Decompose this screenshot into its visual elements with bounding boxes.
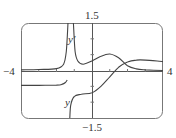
- derivative-curve-left: [21, 23, 68, 70]
- derivative-curve-right: [73, 23, 163, 71]
- function-curve-right: [70, 60, 163, 118]
- curve-label-yprime: y′: [68, 34, 75, 45]
- function-curve-left: [21, 80, 67, 85]
- curve-label-y: y: [65, 97, 70, 108]
- y-max-tick-label: 1.5: [85, 10, 99, 21]
- x-max-tick-label: 4: [167, 66, 173, 77]
- y-min-tick-label: −1.5: [82, 122, 102, 133]
- x-min-tick-label: −4: [3, 66, 15, 77]
